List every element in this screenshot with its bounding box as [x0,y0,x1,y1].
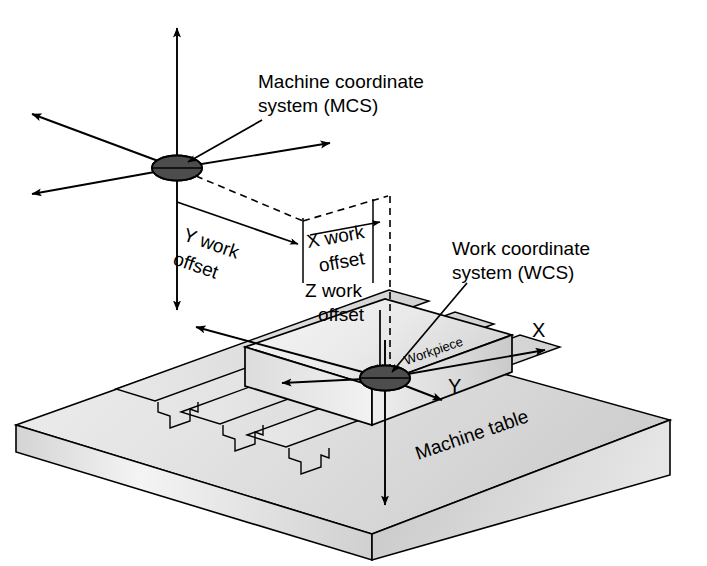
wcs-label-line2: system (WCS) [452,262,574,283]
z-work-offset-label-line1: Z work [305,280,363,301]
y-work-offset-dimension: Y work offset [171,202,298,283]
mcs-axis-y-negative [32,114,177,168]
x-work-offset-label-line2: offset [317,247,367,276]
wcs-axis-x-label: X [532,319,545,341]
mcs-label-line1: Machine coordinate [258,71,424,92]
wcs-origin-marker [360,366,410,391]
wcs-axis-y-label: Y [448,375,461,397]
x-work-offset-dimension: X work offset [305,221,380,276]
machine-coordinate-diagram: Machine table Machine coordinate system … [0,0,707,566]
mcs-label-line2: system (MCS) [258,95,378,116]
wcs-label-line1: Work coordinate [452,238,590,259]
z-work-offset-label-line2: offset [318,304,365,325]
dashed-corner-to-top [303,196,388,221]
